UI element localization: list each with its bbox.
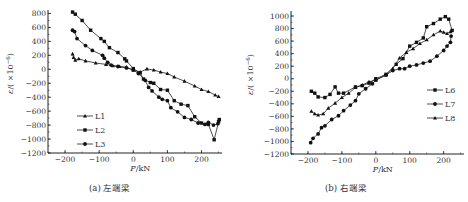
y-tick-label: −400 bbox=[268, 99, 289, 108]
legend-item-l8: L8 bbox=[427, 114, 455, 123]
triangle-marker bbox=[72, 55, 76, 59]
square-marker bbox=[313, 91, 316, 94]
x-tick-label: 0 bbox=[131, 155, 136, 164]
legend-item-l2: L2 bbox=[77, 126, 105, 135]
triangle-marker bbox=[438, 29, 442, 33]
triangle-marker bbox=[340, 95, 344, 99]
square-marker bbox=[80, 19, 83, 22]
circle-marker bbox=[109, 63, 113, 67]
triangle-marker bbox=[425, 38, 429, 42]
square-marker bbox=[89, 29, 92, 32]
legend-label: L8 bbox=[445, 114, 455, 123]
y-axis-title: ε/( ×10−6) bbox=[245, 54, 255, 95]
legend-item-l7: L7 bbox=[427, 100, 455, 109]
circle-marker bbox=[320, 126, 324, 130]
circle-marker bbox=[84, 44, 88, 48]
square-marker bbox=[408, 44, 411, 47]
x-tick-label: 0 bbox=[373, 156, 378, 165]
legend-label: L7 bbox=[445, 100, 455, 109]
circle-marker bbox=[449, 40, 453, 44]
legend-item-l6: L6 bbox=[427, 86, 455, 95]
strain-chart-left-beam: 8006004002000−200−400−600−800−1000−1200−… bbox=[0, 0, 234, 202]
circle-marker bbox=[421, 61, 425, 65]
y-tick-label: 200 bbox=[32, 51, 47, 60]
square-marker bbox=[401, 57, 404, 60]
axes: 10008006004002000−200−400−600−800−1000−1… bbox=[245, 11, 464, 174]
circle-marker bbox=[445, 44, 449, 48]
y-tick-label: −1000 bbox=[21, 135, 47, 144]
circle-marker bbox=[73, 30, 77, 34]
y-tick-label: −1000 bbox=[264, 137, 290, 146]
circle-marker bbox=[433, 102, 437, 106]
square-marker bbox=[173, 99, 176, 102]
circle-marker bbox=[166, 99, 170, 103]
triangle-marker bbox=[418, 42, 422, 46]
legend-item-l1: L1 bbox=[77, 112, 105, 121]
circle-marker bbox=[196, 121, 200, 125]
triangle-marker bbox=[309, 109, 313, 113]
square-marker bbox=[179, 102, 182, 105]
series-l7 bbox=[309, 34, 453, 144]
y-tick-label: 600 bbox=[32, 23, 47, 32]
circle-marker bbox=[106, 60, 110, 64]
square-marker bbox=[74, 12, 77, 15]
legend: L1L2L3 bbox=[77, 112, 105, 149]
circle-marker bbox=[189, 118, 193, 122]
x-tick-label: −200 bbox=[55, 155, 76, 164]
legend-label: L2 bbox=[95, 126, 105, 135]
square-marker bbox=[212, 138, 215, 141]
x-tick-label: −100 bbox=[332, 156, 353, 165]
circle-marker bbox=[83, 142, 87, 146]
chart-panel-left-beam: 8006004002000−200−400−600−800−1000−1200−… bbox=[0, 0, 234, 202]
y-tick-label: 1000 bbox=[270, 12, 289, 21]
square-marker bbox=[323, 96, 326, 99]
legend-label: L3 bbox=[95, 140, 105, 149]
legend-item-l3: L3 bbox=[77, 140, 105, 149]
square-marker bbox=[108, 46, 111, 49]
circle-marker bbox=[125, 66, 129, 70]
circle-marker bbox=[90, 49, 94, 53]
circle-marker bbox=[316, 132, 320, 136]
x-tick-label: 200 bbox=[436, 156, 451, 165]
y-tick-label: −800 bbox=[268, 125, 289, 134]
circle-marker bbox=[116, 65, 120, 69]
circle-marker bbox=[330, 118, 334, 122]
y-tick-label: 200 bbox=[275, 62, 290, 71]
y-tick-label: 400 bbox=[275, 49, 290, 58]
series-l8 bbox=[309, 29, 452, 117]
y-tick-label: −200 bbox=[25, 79, 46, 88]
series-l1 bbox=[71, 52, 221, 98]
square-marker bbox=[152, 82, 155, 85]
square-marker bbox=[333, 85, 336, 88]
circle-marker bbox=[415, 63, 419, 67]
y-tick-label: −200 bbox=[268, 87, 289, 96]
circle-marker bbox=[150, 89, 154, 93]
circle-marker bbox=[408, 64, 412, 68]
circle-marker bbox=[323, 124, 327, 128]
y-tick-label: −1200 bbox=[264, 150, 290, 159]
circle-marker bbox=[216, 122, 220, 126]
y-axis-title: ε/( ×10−6) bbox=[5, 53, 15, 94]
x-tick-label: −100 bbox=[89, 155, 110, 164]
circle-marker bbox=[157, 95, 161, 99]
square-marker bbox=[193, 115, 196, 118]
circle-marker bbox=[147, 86, 151, 90]
square-marker bbox=[337, 91, 340, 94]
y-tick-label: 0 bbox=[284, 74, 289, 83]
circle-marker bbox=[183, 116, 187, 120]
circle-marker bbox=[342, 109, 346, 113]
circle-marker bbox=[176, 110, 180, 114]
square-marker bbox=[159, 88, 162, 91]
y-tick-label: 400 bbox=[32, 37, 47, 46]
x-axis-title: P/kN bbox=[372, 165, 393, 174]
square-marker bbox=[310, 90, 313, 93]
x-tick-label: −200 bbox=[298, 156, 319, 165]
axes: 8006004002000−200−400−600−800−1000−1200−… bbox=[5, 9, 222, 173]
square-marker bbox=[116, 51, 119, 54]
square-marker bbox=[444, 15, 447, 18]
circle-marker bbox=[428, 59, 432, 63]
triangle-marker bbox=[326, 106, 330, 110]
y-tick-label: 0 bbox=[41, 65, 46, 74]
caption-right-beam: (b) 右端梁 bbox=[325, 181, 367, 193]
circle-marker bbox=[169, 106, 173, 110]
